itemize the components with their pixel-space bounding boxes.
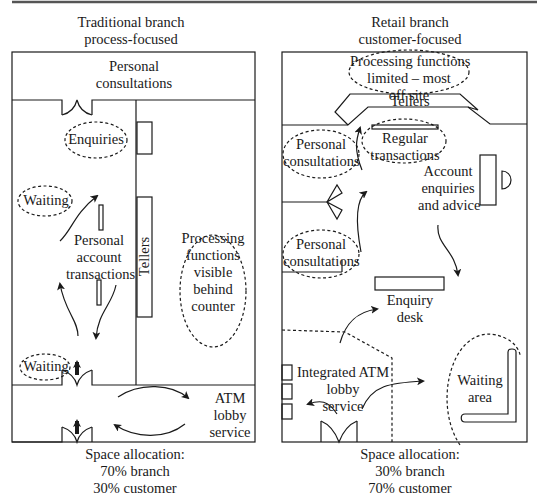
right-tellers-label: Tellers: [380, 93, 440, 110]
waiting-area-label: Waiting area: [455, 372, 505, 406]
personal-consultations-upper-label: Personal consultations: [283, 136, 359, 170]
left-title: Traditional branch process-focused: [46, 14, 216, 48]
right-space-allocation: Space allocation: 30% branch 70% custome…: [355, 446, 465, 497]
left-atm-label: ATM lobby service: [206, 390, 254, 441]
personal-consultations-lower-label: Personal consultations: [283, 236, 359, 270]
waiting-lower-label: Waiting: [21, 358, 71, 375]
personal-account-transactions-label: Personal account transactions: [66, 232, 132, 283]
left-upper-door: [62, 100, 92, 115]
right-title: Retail branch customer-focused: [330, 14, 490, 48]
integrated-atm-label: Integrated ATM lobby service: [296, 364, 390, 415]
enquiry-desk-label: Enquiry desk: [385, 292, 435, 326]
waiting-upper-label: Waiting: [20, 192, 72, 209]
left-processing-label: Processing functions visible behind coun…: [180, 230, 246, 315]
right-entrance-door: [321, 421, 357, 442]
left-space-allocation: Space allocation: 70% branch 30% custome…: [80, 446, 190, 497]
enquiries-label: Enquiries: [66, 131, 126, 148]
account-enquiries-label: Account enquiries and advice: [418, 163, 478, 214]
regular-transactions-label: Regular transactions: [365, 130, 445, 164]
left-personal-consultations-label: Personal consultations: [84, 58, 184, 92]
left-tellers-label: Tellers: [136, 233, 153, 281]
